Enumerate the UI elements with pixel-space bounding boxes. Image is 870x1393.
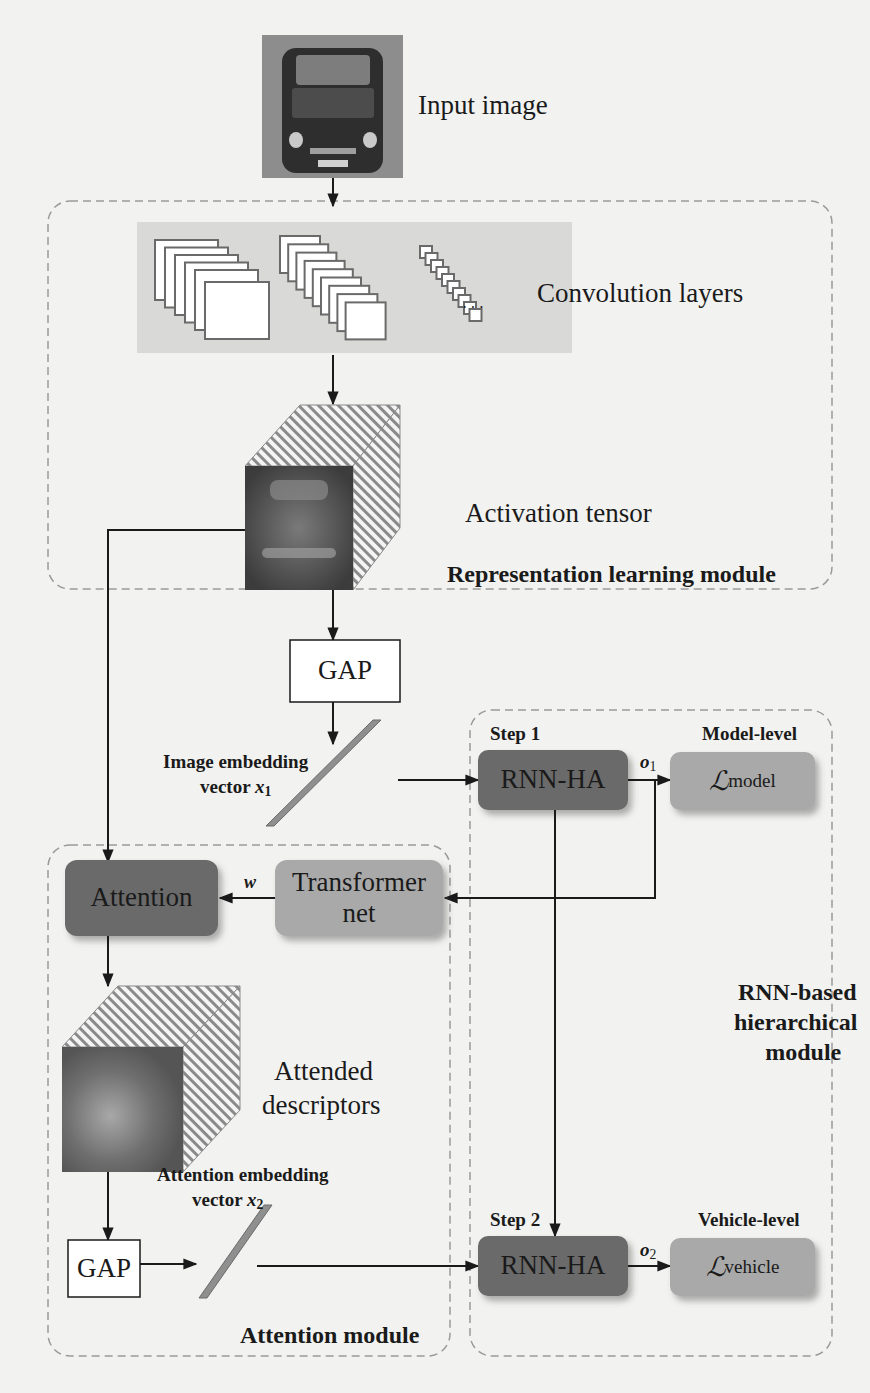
x-subscript: 2 bbox=[257, 1197, 264, 1212]
rnn-title-line1: RNN-based bbox=[737, 977, 858, 1007]
transformer-net-label: Transformernet bbox=[275, 860, 443, 936]
conv-ellipsis: ··· bbox=[462, 300, 487, 316]
o-variable: o bbox=[640, 751, 650, 772]
vehicle-loss-label: ℒvehicle bbox=[670, 1238, 815, 1296]
x-variable: x bbox=[247, 1189, 257, 1210]
activation-tensor bbox=[245, 405, 400, 590]
rnn-title-line2: hierarchical bbox=[734, 1007, 858, 1037]
image-embedding-vector-bar bbox=[266, 720, 381, 826]
o1-label: o1 bbox=[640, 752, 656, 774]
w-variable: w bbox=[244, 872, 256, 892]
conv-feature-map bbox=[346, 302, 386, 339]
line-activation-to-attention bbox=[108, 530, 245, 862]
image-embedding-label-line1: Image embedding bbox=[163, 752, 308, 771]
attended-descriptors-tensor bbox=[62, 986, 240, 1172]
vector-word: vector bbox=[192, 1189, 247, 1210]
gap-top-label: GAP bbox=[290, 640, 400, 702]
weight-label: w bbox=[244, 873, 256, 891]
attention-module-title: Attention module bbox=[240, 1323, 419, 1347]
input-image bbox=[262, 35, 403, 178]
attended-descriptors-label: Attended descriptors bbox=[262, 1055, 380, 1123]
attended-line2: descriptors bbox=[262, 1089, 380, 1123]
attention-box-label: Attention bbox=[65, 860, 218, 936]
architecture-diagram bbox=[0, 0, 870, 1393]
attention-embedding-vector-bar bbox=[199, 1205, 272, 1298]
conv-feature-map bbox=[205, 282, 269, 339]
rnn-title-line3: module bbox=[749, 1037, 858, 1067]
image-embedding-label-line2: vector x1 bbox=[200, 777, 271, 799]
loss-subscript: vehicle bbox=[725, 1256, 780, 1278]
x-variable: x bbox=[255, 776, 265, 797]
loss-symbol: ℒ bbox=[706, 1251, 725, 1282]
loss-symbol: ℒ bbox=[709, 765, 728, 796]
representation-module-title: Representation learning module bbox=[447, 562, 776, 586]
vector-word: vector bbox=[200, 776, 255, 797]
rnn-ha-step1-label: RNN-HA bbox=[478, 750, 628, 810]
rnn-ha-step2-label: RNN-HA bbox=[478, 1236, 628, 1296]
step2-label: Step 2 bbox=[490, 1210, 540, 1229]
model-level-label: Model-level bbox=[702, 724, 797, 743]
model-loss-label: ℒmodel bbox=[670, 752, 815, 810]
rnn-module-title: RNN-based hierarchical module bbox=[737, 977, 858, 1067]
step1-label: Step 1 bbox=[490, 724, 540, 743]
transformer-line2: net bbox=[343, 898, 376, 929]
loss-subscript: model bbox=[728, 770, 776, 792]
vehicle-level-label: Vehicle-level bbox=[698, 1210, 800, 1229]
gap-bottom-label: GAP bbox=[68, 1240, 140, 1297]
o2-label: o2 bbox=[640, 1240, 656, 1262]
attention-embedding-label-line2: vector x2 bbox=[192, 1190, 263, 1212]
activation-tensor-label: Activation tensor bbox=[465, 500, 652, 527]
o-variable: o bbox=[640, 1239, 650, 1260]
o-subscript: 2 bbox=[650, 1247, 657, 1262]
input-image-label: Input image bbox=[418, 92, 548, 119]
conv-layers-label: Convolution layers bbox=[537, 280, 743, 307]
o-subscript: 1 bbox=[650, 759, 657, 774]
attention-embedding-label-line1: Attention embedding bbox=[157, 1165, 329, 1184]
x-subscript: 1 bbox=[265, 784, 272, 799]
attended-line1: Attended bbox=[262, 1055, 380, 1089]
transformer-line1: Transformer bbox=[292, 867, 426, 898]
